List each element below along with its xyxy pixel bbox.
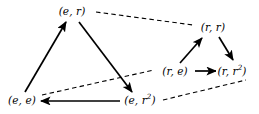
- node-label-base: (e, r: [124, 94, 147, 106]
- graph-node-r-r: (r, r): [199, 21, 226, 34]
- graph-node-r-e: (r, e): [161, 65, 190, 78]
- edge-re-to-rr: [180, 38, 202, 63]
- edge-er-dash-rr: [96, 12, 193, 25]
- node-label-tail: ): [32, 94, 36, 106]
- edge-er2-dash-rr2: [163, 80, 246, 100]
- node-label-base: (e, r: [59, 5, 82, 17]
- graph-diagram: (e, r) (r, r) (r, e) (r, r2) (e, e) (e, …: [0, 0, 259, 114]
- edge-rr-to-rr2: [219, 37, 233, 60]
- edge-er-to-er2: [79, 22, 132, 92]
- node-label-tail: ): [221, 21, 225, 33]
- graph-node-e-r2: (e, r2): [123, 94, 157, 107]
- graph-node-e-r: (e, r): [57, 5, 87, 18]
- node-label-base: (e, e: [8, 94, 32, 106]
- edge-ee-dash-re: [42, 70, 154, 95]
- node-label-base: (r, r: [217, 65, 237, 77]
- node-label-tail: ): [81, 5, 85, 17]
- node-label-tail: ): [151, 94, 155, 106]
- node-label-tail: ): [184, 65, 188, 77]
- graph-node-e-e: (e, e): [7, 94, 38, 107]
- node-label-tail: ): [242, 65, 246, 77]
- edge-ee-to-er: [25, 22, 66, 92]
- node-label-base: (r, e: [162, 65, 183, 77]
- node-label-base: (r, r: [201, 21, 221, 33]
- graph-node-r-r2: (r, r2): [216, 65, 248, 78]
